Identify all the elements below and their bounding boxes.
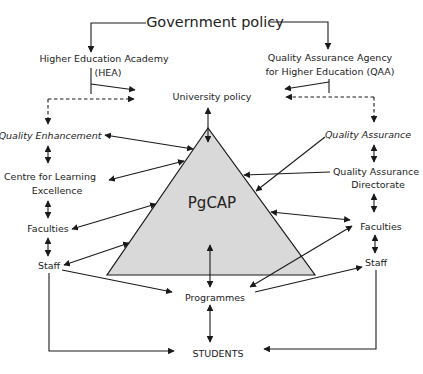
directorate-triangle-arrow xyxy=(244,172,330,175)
qa-directorate-label-line2: Directorate xyxy=(351,179,405,190)
qaa-to-university-arrow xyxy=(285,82,329,89)
centre-triangle-arrow xyxy=(109,161,184,180)
government-policy-label: Government policy xyxy=(146,14,284,30)
qaa-label-line1: Quality Assurance Agency xyxy=(268,52,393,63)
qa-triangle-arrow xyxy=(256,137,325,191)
qe-triangle-arrow xyxy=(105,135,193,149)
faculties-right-triangle-arrow xyxy=(271,212,350,220)
left-staff-label: Staff xyxy=(38,260,61,271)
quality-assurance-label: Quality Assurance xyxy=(325,129,411,140)
right-staff-to-students-arrow xyxy=(264,270,376,349)
qaa-label-line2: for Higher Education (QAA) xyxy=(265,66,394,77)
hea-label-line2: (HEA) xyxy=(94,67,121,78)
right-faculties-label: Faculties xyxy=(360,221,402,232)
hea-label-line1: Higher Education Academy xyxy=(39,53,168,64)
students-label: STUDENTS xyxy=(192,348,243,359)
left-staff-to-students-arrow xyxy=(49,273,174,351)
gov-to-hea-arrow xyxy=(91,23,146,52)
diagram-canvas: Government policy Higher Education Acade… xyxy=(0,0,423,374)
pgcap-diagram: Government policy Higher Education Acade… xyxy=(0,0,423,374)
centre-learning-label-line1: Centre for Learning xyxy=(4,171,96,182)
qa-directorate-label-line1: Quality Assurance xyxy=(333,166,419,177)
left-faculties-label: Faculties xyxy=(27,223,69,234)
quality-enhancement-label: Quality Enhancement xyxy=(0,130,103,141)
university-policy-label: University policy xyxy=(173,91,252,102)
programmes-label: Programmes xyxy=(185,292,245,303)
right-staff-label: Staff xyxy=(365,257,388,268)
centre-learning-label-line2: Excellence xyxy=(32,185,83,196)
hea-to-university-arrow xyxy=(91,84,135,90)
pgcap-label: PgCAP xyxy=(188,194,236,212)
